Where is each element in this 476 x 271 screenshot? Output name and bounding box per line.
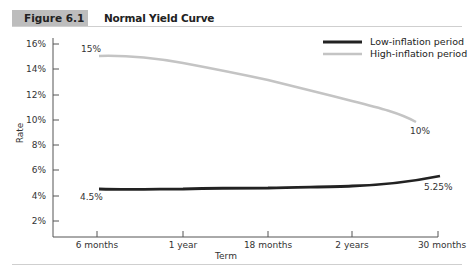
y-tick-16: 16% [26,39,46,49]
y-tick-2: 2% [32,216,47,226]
y-axis-title: Rate [15,122,25,143]
y-tick-4: 4% [32,191,47,201]
high-start-label: 15% [81,44,101,54]
x-axis-title: Term [214,251,237,261]
yield-curve-chart: 2% 4% 6% 8% 10% 12% 14% 16% 6 months 1 y… [0,0,476,271]
high-inflation-line [99,56,416,122]
x-tick-30-months: 30 months [418,240,467,250]
legend: Low-inflation period High-inflation peri… [323,36,467,59]
x-tick-2-years: 2 years [335,240,369,250]
y-tick-14: 14% [26,64,46,74]
y-ticks [53,44,59,221]
high-end-label: 10% [410,126,430,136]
low-end-label: 5.25% [424,182,453,192]
legend-label-low: Low-inflation period [370,36,464,47]
y-tick-8: 8% [32,140,47,150]
x-tick-labels: 6 months 1 year 18 months 2 years 30 mon… [76,240,467,250]
x-ticks [97,231,438,237]
y-tick-labels: 2% 4% 6% 8% 10% 12% 14% 16% [26,39,46,226]
y-tick-10: 10% [26,115,46,125]
x-tick-18-months: 18 months [244,240,293,250]
legend-label-high: High-inflation period [370,48,467,59]
x-tick-6-months: 6 months [76,240,119,250]
x-tick-1-year: 1 year [169,240,198,250]
y-tick-6: 6% [32,165,47,175]
y-tick-12: 12% [26,90,46,100]
low-start-label: 4.5% [80,192,103,202]
low-inflation-line [99,176,440,189]
